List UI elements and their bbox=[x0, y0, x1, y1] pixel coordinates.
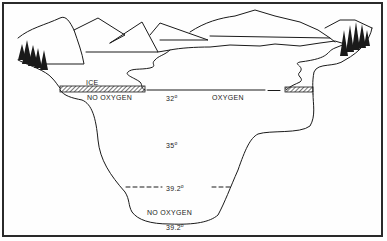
mountain-middle bbox=[150, 23, 208, 40]
trees-right bbox=[340, 22, 370, 56]
shoreline-left bbox=[127, 50, 170, 90]
ice-slab-right bbox=[285, 87, 313, 92]
surface-line bbox=[147, 90, 280, 91]
no-oxygen-top-label: NO OXYGEN bbox=[87, 94, 132, 101]
mountain-large bbox=[190, 10, 330, 38]
mid-temp-label: 35o bbox=[166, 141, 177, 149]
surface-temp-label: 32o bbox=[166, 94, 177, 102]
mountain-left bbox=[74, 18, 125, 43]
right-hill bbox=[325, 20, 372, 28]
oxygen-label: OXYGEN bbox=[212, 94, 244, 101]
shoreline-right bbox=[286, 44, 345, 90]
trees-left bbox=[18, 40, 48, 70]
lake-illustration bbox=[0, 0, 387, 241]
ice-slab-left bbox=[60, 86, 145, 92]
lake-basin bbox=[60, 90, 314, 224]
thermocline-temp-label: 39.2o bbox=[166, 184, 184, 192]
bottom-temp-label: 39.2o bbox=[166, 223, 184, 231]
no-oxygen-bottom-label: NO OXYGEN bbox=[147, 209, 192, 216]
far-shore bbox=[210, 36, 335, 42]
shoreline-far bbox=[158, 41, 345, 52]
ice-label: ICE bbox=[86, 79, 99, 86]
